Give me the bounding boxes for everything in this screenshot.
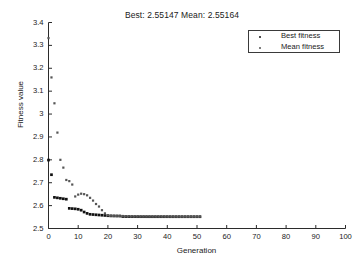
- data-point: [92, 199, 94, 201]
- data-point: [160, 216, 162, 218]
- data-point: [169, 216, 171, 218]
- legend-label-mean: Mean fitness: [281, 42, 324, 51]
- data-point: [104, 214, 107, 217]
- data-point: [65, 198, 68, 201]
- data-point: [142, 216, 144, 218]
- data-point: [131, 215, 133, 217]
- data-point: [148, 216, 150, 218]
- data-point: [172, 216, 174, 218]
- x-tick-4: 40: [155, 232, 179, 241]
- y-tick-4: 2.9: [22, 132, 44, 141]
- data-point: [139, 216, 141, 218]
- data-points: [47, 37, 201, 218]
- fitness-plot-figure: Best: 2.55147 Mean: 2.55164 2.52.62.72.8…: [0, 0, 364, 265]
- data-point: [110, 215, 112, 217]
- data-point: [193, 216, 195, 218]
- data-point: [116, 215, 118, 217]
- data-point: [113, 215, 115, 217]
- data-point: [59, 197, 62, 200]
- data-point: [181, 216, 183, 218]
- y-tick-1: 2.6: [22, 201, 44, 210]
- data-point: [151, 216, 153, 218]
- data-point: [178, 216, 180, 218]
- data-point: [137, 216, 139, 218]
- x-tick-9: 90: [304, 232, 328, 241]
- data-point: [59, 159, 61, 161]
- legend: Best fitness Mean fitness: [248, 30, 340, 53]
- data-point: [77, 208, 80, 211]
- data-point: [122, 215, 124, 217]
- legend-item-mean: Mean fitness: [249, 43, 339, 53]
- data-point: [166, 216, 168, 218]
- data-point: [163, 216, 165, 218]
- y-axis-label: Fitness value: [16, 65, 25, 145]
- data-point: [107, 214, 109, 216]
- y-tick-8: 3.3: [22, 40, 44, 49]
- data-point: [92, 213, 95, 216]
- data-point: [89, 213, 92, 216]
- x-tick-1: 10: [66, 232, 90, 241]
- data-point: [47, 37, 49, 39]
- x-tick-0: 0: [37, 232, 61, 241]
- data-point: [101, 214, 104, 217]
- y-tick-5: 3: [22, 109, 44, 118]
- data-point: [47, 159, 50, 162]
- y-tick-2: 2.7: [22, 178, 44, 187]
- data-point: [134, 216, 136, 218]
- y-tick-3: 2.8: [22, 155, 44, 164]
- data-point: [119, 215, 121, 217]
- x-tick-8: 80: [274, 232, 298, 241]
- data-point: [101, 209, 103, 211]
- data-point: [145, 216, 147, 218]
- data-point: [199, 216, 201, 218]
- data-point: [196, 216, 198, 218]
- data-point: [104, 212, 106, 214]
- data-point: [125, 215, 127, 217]
- data-point: [74, 195, 76, 197]
- x-tick-5: 50: [185, 232, 209, 241]
- data-point: [71, 183, 73, 185]
- y-tick-9: 3.4: [22, 18, 44, 27]
- data-point: [95, 203, 97, 205]
- data-point: [187, 216, 189, 218]
- data-point: [86, 194, 88, 196]
- data-point: [86, 212, 89, 215]
- x-tick-2: 20: [96, 232, 120, 241]
- data-point: [74, 207, 77, 210]
- data-point: [50, 173, 53, 176]
- x-tick-6: 60: [215, 232, 239, 241]
- data-point: [190, 216, 192, 218]
- data-point: [71, 207, 74, 210]
- y-tick-7: 3.2: [22, 63, 44, 72]
- data-point: [68, 180, 70, 182]
- data-point: [80, 209, 83, 212]
- data-point: [95, 213, 98, 216]
- x-tick-10: 100: [334, 232, 358, 241]
- data-point: [184, 216, 186, 218]
- data-point: [68, 207, 71, 210]
- data-point: [65, 179, 67, 181]
- data-point: [62, 197, 65, 200]
- mean-fitness-marker-icon: [259, 47, 261, 49]
- data-point: [175, 216, 177, 218]
- data-point: [77, 194, 79, 196]
- data-point: [128, 215, 130, 217]
- x-tick-7: 70: [244, 232, 268, 241]
- x-axis-label: Generation: [48, 246, 345, 255]
- best-fitness-marker-icon: [259, 36, 261, 38]
- x-tick-3: 30: [126, 232, 150, 241]
- data-point: [56, 196, 59, 199]
- data-point: [89, 197, 91, 199]
- data-point: [98, 205, 100, 207]
- data-point: [53, 102, 55, 104]
- legend-label-best: Best fitness: [281, 31, 320, 40]
- data-point: [154, 216, 156, 218]
- data-point: [80, 193, 82, 195]
- data-point: [157, 216, 159, 218]
- data-point: [83, 211, 86, 214]
- legend-item-best: Best fitness: [249, 32, 339, 42]
- data-point: [50, 76, 52, 78]
- y-tick-6: 3.1: [22, 86, 44, 95]
- data-point: [62, 167, 64, 169]
- data-point: [53, 196, 56, 199]
